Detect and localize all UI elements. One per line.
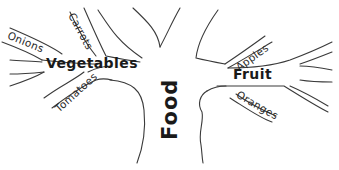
food-tree-diagram: Onions Carrots Tomatoes Apples Oranges V… (0, 0, 339, 170)
root-food: Food (160, 79, 181, 140)
branch-vegetables: Vegetables (46, 56, 138, 70)
branch-fruit: Fruit (233, 67, 272, 81)
